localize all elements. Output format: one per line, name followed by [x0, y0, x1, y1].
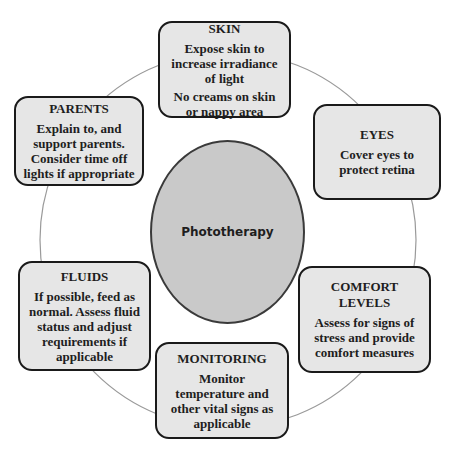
node-title: FLUIDS: [61, 269, 109, 285]
node-line: Assess for signs of: [314, 315, 415, 330]
node-line: or nappy area: [171, 104, 277, 119]
node-line: lights if appropriate: [24, 166, 135, 181]
node-title: PARENTS: [49, 101, 109, 117]
node-body: Cover eyes to protect retina: [339, 147, 415, 177]
node-title-line: LEVELS: [331, 295, 398, 311]
node-line: Cover eyes to: [339, 147, 415, 162]
node-body: Monitor temperature and other vital sign…: [171, 371, 274, 431]
node-body: Assess for signs of stress and provide c…: [314, 315, 415, 360]
node-line: applicable: [29, 349, 140, 364]
node-line: support parents.: [24, 136, 135, 151]
node-line: Expose skin to: [171, 41, 277, 56]
center-node-phototherapy: Phototherapy: [150, 140, 305, 324]
node-line: temperature and: [171, 386, 274, 401]
node-line: comfort measures: [314, 345, 415, 360]
node-line: Explain to, and: [24, 121, 135, 136]
center-label: Phototherapy: [181, 225, 273, 239]
node-title: SKIN: [209, 21, 241, 37]
node-line: of light: [171, 71, 277, 86]
node-body: If possible, feed as normal. Assess flui…: [29, 289, 140, 364]
node-line: No creams on skin: [171, 89, 277, 104]
node-monitoring: MONITORING Monitor temperature and other…: [155, 342, 289, 439]
node-line: increase irradiance: [171, 56, 277, 71]
node-title: EYES: [360, 127, 394, 143]
node-line: If possible, feed as: [29, 289, 140, 304]
node-title: MONITORING: [177, 351, 266, 367]
node-line: Monitor: [171, 371, 274, 386]
node-line: normal. Assess fluid: [29, 304, 140, 319]
node-line: status and adjust: [29, 319, 140, 334]
node-line: requirements if: [29, 334, 140, 349]
node-parents: PARENTS Explain to, and support parents.…: [14, 96, 144, 186]
node-comfort-levels: COMFORT LEVELS Assess for signs of stres…: [298, 266, 431, 373]
node-body: Explain to, and support parents. Conside…: [24, 121, 135, 181]
node-body: Expose skin to increase irradiance of li…: [171, 41, 277, 119]
node-line: other vital signs as: [171, 401, 274, 416]
node-title: COMFORT LEVELS: [331, 279, 398, 311]
node-line: stress and provide: [314, 330, 415, 345]
node-line: applicable: [171, 416, 274, 431]
node-skin: SKIN Expose skin to increase irradiance …: [158, 21, 291, 118]
node-line: Consider time off: [24, 151, 135, 166]
node-fluids: FLUIDS If possible, feed as normal. Asse…: [18, 261, 151, 371]
node-eyes: EYES Cover eyes to protect retina: [313, 104, 441, 200]
node-line: protect retina: [339, 162, 415, 177]
node-title-line: COMFORT: [331, 279, 398, 295]
